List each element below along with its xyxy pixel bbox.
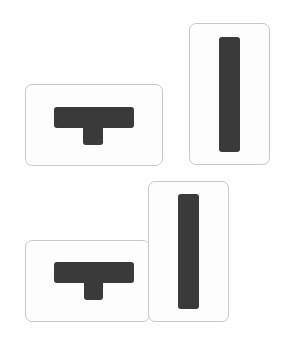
vertical-bar-icon (178, 194, 199, 309)
bar-tile-bottom: Bar tile (148, 181, 229, 322)
vertical-bar-icon (219, 37, 240, 152)
bar-tile-top: Bar tile (189, 23, 270, 165)
t-tile-bottom: T tile (25, 240, 150, 322)
t-tile-top: T tile (25, 84, 163, 166)
